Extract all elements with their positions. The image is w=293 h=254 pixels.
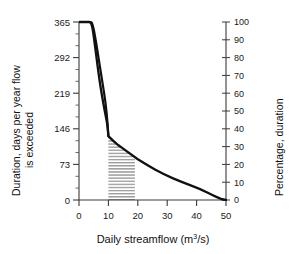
y-tick-label-right-80: 80: [234, 53, 244, 63]
y-tick-label-right-100: 100: [234, 17, 249, 27]
y-tick-label-right-70: 70: [234, 71, 244, 81]
flow-duration-curve-figure: 365 292 219 146 73 0 100 90 80 70 60 50 …: [0, 0, 293, 254]
x-tick-label-50: 50: [221, 210, 232, 221]
y-axis-title-left-line1: Duration, days per year flow: [10, 65, 22, 196]
x-axis-title-main: Daily streamflow (m: [97, 233, 194, 245]
x-tick-label-20: 20: [133, 210, 144, 221]
y-tick-label-left-0: 0: [65, 195, 70, 206]
y-tick-label-left-219: 219: [54, 88, 70, 99]
y-tick-label-right-10: 10: [234, 178, 244, 188]
y-tick-label-right-90: 90: [234, 35, 244, 45]
x-tick-label-40: 40: [191, 210, 202, 221]
y-tick-label-right-0: 0: [234, 195, 239, 205]
x-axis-title-tail: /s): [197, 233, 209, 245]
x-axis-title-text: Daily streamflow (m3/s): [97, 233, 210, 245]
y-tick-label-right-60: 60: [234, 89, 244, 99]
y-tick-label-left-73: 73: [59, 159, 70, 170]
y-tick-label-left-365: 365: [54, 17, 70, 28]
y-tick-label-right-40: 40: [234, 124, 244, 134]
x-axis-title: Daily streamflow (m3/s): [97, 233, 210, 245]
chart-background: [0, 0, 293, 254]
y-tick-label-right-20: 20: [234, 160, 244, 170]
x-tick-label-30: 30: [162, 210, 173, 221]
y-tick-label-right-30: 30: [234, 142, 244, 152]
y-axis-title-left-line2: is exceeded: [23, 112, 35, 168]
y-tick-label-left-292: 292: [54, 52, 70, 63]
x-tick-label-0: 0: [76, 210, 81, 221]
y-axis-title-right-label: Percentage, duration: [273, 98, 285, 196]
y-axis-title-right: Percentage, duration: [273, 98, 285, 196]
chart-svg: 365 292 219 146 73 0 100 90 80 70 60 50 …: [0, 0, 293, 254]
x-tick-label-10: 10: [103, 210, 114, 221]
y-tick-label-left-146: 146: [54, 123, 70, 134]
y-tick-label-right-50: 50: [234, 106, 244, 116]
